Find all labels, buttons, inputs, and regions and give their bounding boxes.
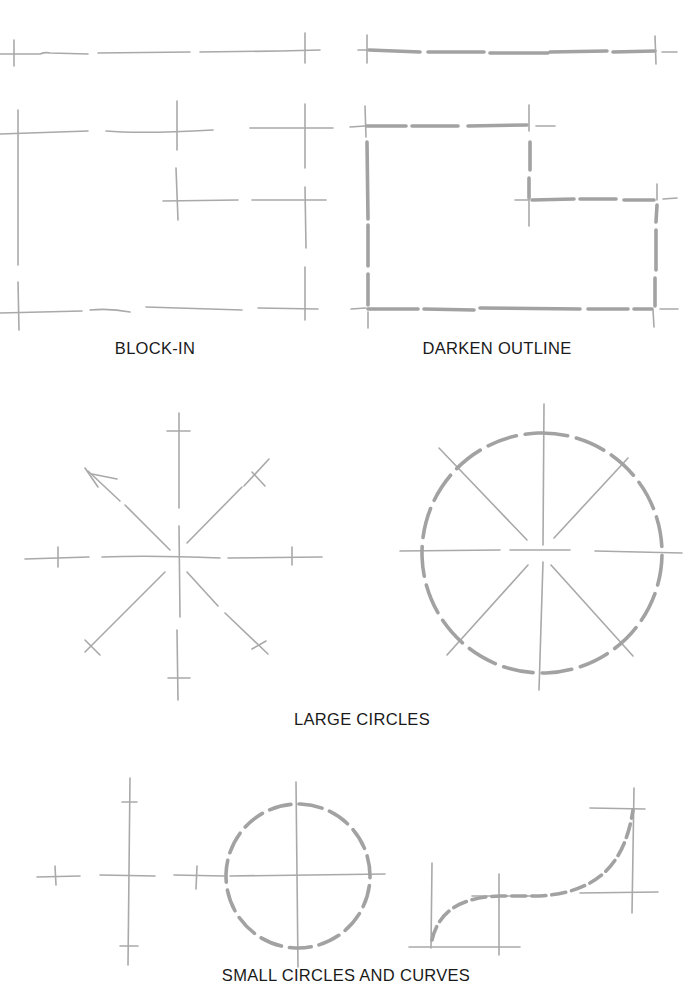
caption-block-in: BLOCK-IN bbox=[115, 339, 195, 358]
curve-construction bbox=[409, 788, 658, 955]
caption-small-circles-and-curves: SMALL CIRCLES AND CURVES bbox=[222, 966, 470, 985]
large-circles-construction bbox=[25, 413, 322, 700]
block-in-sketch bbox=[0, 33, 333, 330]
darken-outline-sketch bbox=[350, 35, 678, 328]
caption-darken-outline: DARKEN OUTLINE bbox=[422, 339, 571, 358]
small-circles-construction bbox=[37, 778, 385, 967]
caption-large-circles: LARGE CIRCLES bbox=[294, 710, 430, 729]
large-circles-finished bbox=[400, 404, 682, 690]
